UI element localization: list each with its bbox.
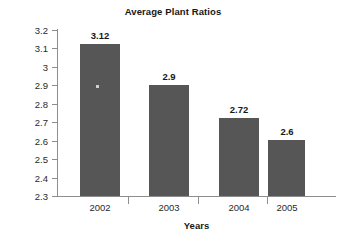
x-axis-label-2004: 2004 xyxy=(215,203,263,213)
x-axis-label-2002: 2002 xyxy=(76,203,124,213)
y-tick-mark xyxy=(52,122,58,123)
y-tick-mark xyxy=(52,178,58,179)
y-tick-label: 2.4 xyxy=(10,174,48,184)
bar-value-2005: 2.6 xyxy=(265,127,309,137)
y-tick-label: 2.5 xyxy=(10,155,48,165)
chart-title: Average Plant Ratios xyxy=(0,6,346,17)
bar-chart: Average Plant Ratios Water Use Ratio lit… xyxy=(0,0,346,241)
y-tick-label: 3.1 xyxy=(10,44,48,54)
bar-2002 xyxy=(80,44,120,196)
y-tick-label: 2.7 xyxy=(10,118,48,128)
x-tick-mark xyxy=(128,197,129,204)
x-axis-line xyxy=(57,196,336,197)
y-tick-label: 2.9 xyxy=(10,81,48,91)
y-tick-mark xyxy=(52,196,58,197)
x-axis-label-2003: 2003 xyxy=(145,203,193,213)
y-tick-mark xyxy=(52,159,58,160)
image-artifact-speckle xyxy=(96,85,99,88)
y-tick-mark xyxy=(52,85,58,86)
y-tick-label: 2.3 xyxy=(10,192,48,202)
y-tick-mark xyxy=(52,104,58,105)
x-tick-mark xyxy=(198,197,199,204)
x-axis-title: Years xyxy=(57,220,336,231)
y-tick-mark xyxy=(52,30,58,31)
y-tick-mark xyxy=(52,67,58,68)
y-tick-label: 2.6 xyxy=(10,137,48,147)
bar-value-2004: 2.72 xyxy=(217,105,261,115)
bar-2005 xyxy=(268,140,305,196)
y-tick-label: 3 xyxy=(10,63,48,73)
bar-2004 xyxy=(219,118,259,196)
bar-value-2003: 2.9 xyxy=(147,72,191,82)
y-tick-mark xyxy=(52,48,58,49)
bar-value-2002: 3.12 xyxy=(78,31,122,41)
y-tick-label: 2.8 xyxy=(10,100,48,110)
x-axis-label-2005: 2005 xyxy=(263,203,311,213)
y-tick-label: 3.2 xyxy=(10,26,48,36)
bar-2003 xyxy=(149,85,189,196)
y-tick-mark xyxy=(52,141,58,142)
y-axis-line xyxy=(57,29,58,197)
